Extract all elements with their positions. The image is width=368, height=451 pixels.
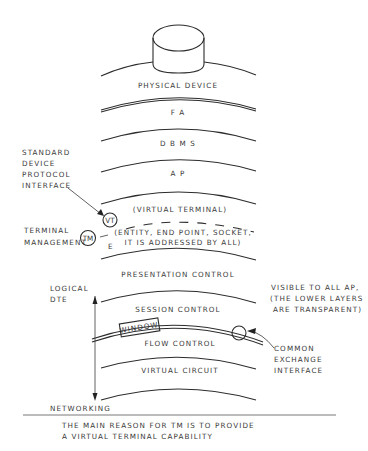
svg-text:INTERFACE: INTERFACE <box>22 181 71 190</box>
osi-layer-diagram: PHYSICAL DEVICE F A D B M S A P (VIRTUAL… <box>0 0 368 451</box>
svg-text:DTE: DTE <box>50 295 68 304</box>
svg-text:(THE LOWER LAYERS: (THE LOWER LAYERS <box>270 294 363 303</box>
visible-to-all-ap-note: VISIBLE TO ALL AP, (THE LOWER LAYERS ARE… <box>270 283 363 314</box>
svg-text:DEVICE: DEVICE <box>22 159 55 168</box>
networking-label: NETWORKING <box>50 404 111 413</box>
logical-dte-label: LOGICAL DTE <box>50 284 89 304</box>
common-exchange-interface-label: COMMON EXCHANGE INTERFACE <box>274 344 323 375</box>
vt-pointer-line <box>68 188 101 214</box>
layer-label-flow-control: FLOW CONTROL <box>144 339 215 348</box>
svg-text:MANAGEMENT: MANAGEMENT <box>24 238 87 247</box>
common-exchange-pointer <box>250 331 274 348</box>
caption-line-1: THE MAIN REASON FOR TM IS TO PROVIDE <box>61 421 255 430</box>
layer-boundary-arc-1 <box>101 62 153 76</box>
layer-label-ap: A P <box>171 169 186 178</box>
layer-label-physical-device: PHYSICAL DEVICE <box>138 81 218 90</box>
svg-text:EXCHANGE: EXCHANGE <box>274 355 323 364</box>
vt-circle-label: VT <box>105 216 115 225</box>
terminal-management-label: TERMINAL MANAGEMENT <box>23 226 87 247</box>
layer-label-virtual-terminal: (VIRTUAL TERMINAL) <box>133 205 227 214</box>
layer-label-dbms: D B M S <box>160 139 196 148</box>
svg-text:LOGICAL: LOGICAL <box>50 284 89 293</box>
layer-boundary-arc-10 <box>101 389 256 400</box>
svg-text:ARE TRANSPARENT): ARE TRANSPARENT) <box>273 305 362 314</box>
e-label: E <box>108 242 114 251</box>
layer-boundary-arc-7 <box>101 291 256 303</box>
layer-label-entity-line2: IT IS ADDRESSED BY ALL) <box>124 238 241 247</box>
layer-label-fa: F A <box>171 108 186 117</box>
standard-device-protocol-interface-label: STANDARD DEVICE PROTOCOL INTERFACE <box>22 148 71 190</box>
layer-boundary-arc-5 <box>101 192 256 204</box>
svg-text:COMMON: COMMON <box>274 344 315 353</box>
layer-boundary-arc-6 <box>101 248 256 260</box>
window-box: WINDOW <box>119 318 160 337</box>
svg-text:VISIBLE TO ALL AP,: VISIBLE TO ALL AP, <box>271 283 359 292</box>
svg-text:WINDOW: WINDOW <box>119 320 159 335</box>
layer-label-session-control: SESSION CONTROL <box>135 305 220 314</box>
layer-label-presentation-control: PRESENTATION CONTROL <box>121 270 234 279</box>
layer-label-virtual-circuit: VIRTUAL CIRCUIT <box>141 366 218 375</box>
caption-line-2: A VIRTUAL TERMINAL CAPABILITY <box>62 432 213 441</box>
tm-circle-label: TM <box>82 234 94 243</box>
svg-text:INTERFACE: INTERFACE <box>274 366 323 375</box>
layer-label-entity-line1: (ENTITY, END POINT, SOCKET, <box>114 228 252 237</box>
cylinder-device-icon <box>153 25 204 73</box>
logical-dte-to-networking-arrow <box>93 296 98 401</box>
layer-boundary-arc-1b <box>204 62 256 75</box>
svg-text:TERMINAL: TERMINAL <box>23 226 69 235</box>
svg-text:PROTOCOL: PROTOCOL <box>22 170 71 179</box>
svg-text:STANDARD: STANDARD <box>22 148 70 157</box>
